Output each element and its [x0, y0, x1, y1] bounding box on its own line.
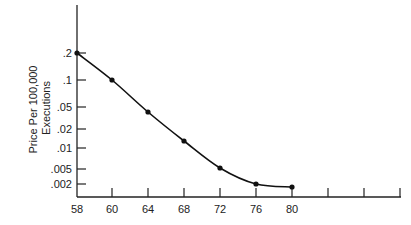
data-point: [109, 77, 114, 82]
x-tick-label: 72: [214, 203, 226, 215]
y-tick-label: .002: [51, 178, 72, 190]
y-tick-label: .05: [57, 101, 72, 113]
price-curve: [77, 53, 292, 187]
y-tick-label: .005: [51, 163, 72, 175]
x-tick-label: 60: [106, 203, 118, 215]
data-point: [145, 109, 150, 114]
x-tick-label: 80: [286, 203, 298, 215]
data-points: [74, 50, 294, 189]
y-axis-label: Price Per 100,000 Executions: [27, 62, 52, 153]
y-ticks: .2.1.05.02.01.005.002: [51, 47, 86, 190]
data-point: [181, 138, 186, 143]
data-point: [253, 181, 258, 186]
data-point: [217, 165, 222, 170]
data-point: [74, 50, 79, 55]
y-tick-label: .02: [57, 123, 72, 135]
x-ticks: 58606468727680: [71, 188, 400, 215]
x-tick-label: 68: [178, 203, 190, 215]
x-tick-label: 64: [142, 203, 154, 215]
y-tick-label: .1: [63, 74, 72, 86]
chart: .2.1.05.02.01.005.002 58606468727680 Pri…: [0, 0, 411, 225]
data-point: [289, 184, 294, 189]
x-tick-label: 58: [71, 203, 83, 215]
y-tick-label: .2: [63, 47, 72, 59]
y-tick-label: .01: [57, 142, 72, 154]
x-tick-label: 76: [250, 203, 262, 215]
